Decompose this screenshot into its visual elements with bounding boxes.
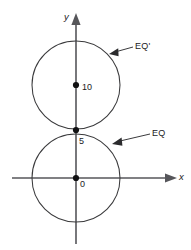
eq-prime-arrowhead [109,48,119,56]
eq-callout-arrow [112,134,150,146]
eq-leader-line [120,134,150,141]
eq-prime-callout-arrow [109,47,133,56]
x-axis-arrowhead [165,173,177,182]
curve-label-eq: EQ [152,129,165,138]
point-center-upper-circle [73,82,79,88]
eq-arrowhead [112,138,122,146]
curve-label-eq-prime: EQ' [135,42,150,51]
point-label-ten: 10 [82,83,92,92]
geometry-diagram: y x 10 5 0 EQ' EQ [0,0,191,250]
point-label-five: 5 [79,137,84,146]
y-axis-arrowhead [71,13,80,25]
y-axis-label: y [64,12,69,22]
x-axis [12,173,177,182]
point-label-zero: 0 [80,180,85,189]
point-origin [73,175,79,181]
x-axis-label: x [179,172,184,182]
diagram-canvas [0,0,191,250]
point-tangency [73,127,79,133]
